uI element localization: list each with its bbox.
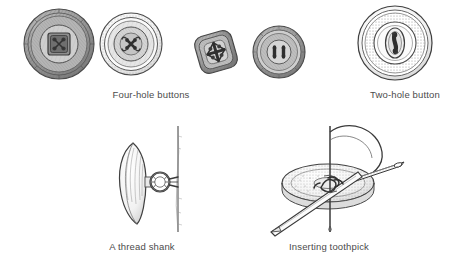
- thread-shank-illustration: [120, 126, 183, 232]
- caption-inserting-toothpick: Inserting toothpick: [289, 241, 369, 252]
- caption-thread-shank: A thread shank: [109, 241, 174, 252]
- button-round-dark: [0, 0, 459, 258]
- caption-two-hole-button: Two-hole button: [370, 89, 440, 100]
- inserting-toothpick-illustration: [271, 126, 404, 236]
- button-round-ringed: [100, 13, 162, 75]
- button-square: [192, 28, 239, 75]
- figure-root: Four-hole buttons Two-hole button A thre…: [0, 0, 459, 258]
- caption-four-hole-buttons: Four-hole buttons: [112, 89, 189, 100]
- button-two-hole: [358, 6, 432, 80]
- button-round-small: [253, 26, 305, 78]
